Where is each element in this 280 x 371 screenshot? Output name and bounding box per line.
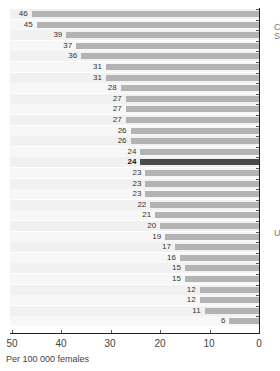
bar-value-label: 23 <box>121 190 141 198</box>
bar <box>165 234 259 240</box>
bar-value-label: 15 <box>161 275 181 283</box>
bar-value-label: 6 <box>205 317 225 325</box>
bar <box>205 308 259 314</box>
y-axis-line <box>259 8 260 334</box>
clipped-label: S <box>274 31 280 41</box>
bar-value-label: 36 <box>57 52 77 60</box>
bar <box>145 191 259 197</box>
bar <box>126 96 259 102</box>
bar-value-label: 26 <box>107 137 127 145</box>
bar <box>32 11 259 17</box>
bar-value-label: 24 <box>116 158 136 166</box>
x-tick-label-10: 10 <box>199 338 219 349</box>
bar <box>140 149 259 155</box>
bar <box>200 287 259 293</box>
bar-value-label: 20 <box>136 222 156 230</box>
bar-value-label: 15 <box>161 264 181 272</box>
x-tick-label-40: 40 <box>51 338 71 349</box>
x-tick-label-50: 50 <box>2 338 22 349</box>
bar-value-label: 27 <box>102 95 122 103</box>
bar-value-label: 11 <box>181 307 201 315</box>
bar <box>145 181 259 187</box>
bar-value-label: 23 <box>121 180 141 188</box>
bar-value-label: 39 <box>42 31 62 39</box>
bar <box>126 117 259 123</box>
bar <box>185 276 259 282</box>
bar-value-label: 31 <box>82 74 102 82</box>
bar <box>106 75 259 81</box>
bar-value-label: 28 <box>97 84 117 92</box>
bar-value-label: 24 <box>116 148 136 156</box>
bar-value-label: 12 <box>176 296 196 304</box>
bar-value-label: 27 <box>102 105 122 113</box>
bar-value-label: 21 <box>131 211 151 219</box>
bar <box>131 138 259 144</box>
x-tick-label-30: 30 <box>100 338 120 349</box>
bar <box>185 265 259 271</box>
bar <box>66 32 259 38</box>
bar-value-label: 31 <box>82 63 102 71</box>
bar <box>76 43 259 49</box>
bar <box>145 170 259 176</box>
highlighted-bar <box>140 159 259 165</box>
bar-value-label: 19 <box>141 233 161 241</box>
bar <box>37 22 259 28</box>
bar <box>229 318 259 324</box>
horizontal-bar-chart: 4645393736313128272727262624242323232221… <box>0 0 280 371</box>
bar-value-label: 26 <box>107 127 127 135</box>
bar <box>81 53 259 59</box>
x-axis-line <box>10 333 260 334</box>
bar-value-label: 27 <box>102 116 122 124</box>
bar <box>126 106 259 112</box>
bar <box>121 85 259 91</box>
bar <box>160 223 259 229</box>
bar-value-label: 45 <box>13 21 33 29</box>
bar <box>131 128 259 134</box>
bar <box>106 64 259 70</box>
bar-value-label: 22 <box>126 201 146 209</box>
bar-value-label: 12 <box>176 286 196 294</box>
clipped-label: U <box>274 228 280 238</box>
bar <box>175 244 259 250</box>
x-tick-label-0: 0 <box>249 338 269 349</box>
bar-value-label: 17 <box>151 243 171 251</box>
bar-value-label: 16 <box>156 254 176 262</box>
bar-value-label: 23 <box>121 169 141 177</box>
bar <box>180 255 259 261</box>
bar <box>200 297 259 303</box>
bar-value-label: 37 <box>52 42 72 50</box>
bar <box>150 202 259 208</box>
x-axis-title: Per 100 000 females <box>6 354 89 364</box>
bar-value-label: 46 <box>8 10 28 18</box>
bar <box>155 212 259 218</box>
x-tick-label-20: 20 <box>150 338 170 349</box>
